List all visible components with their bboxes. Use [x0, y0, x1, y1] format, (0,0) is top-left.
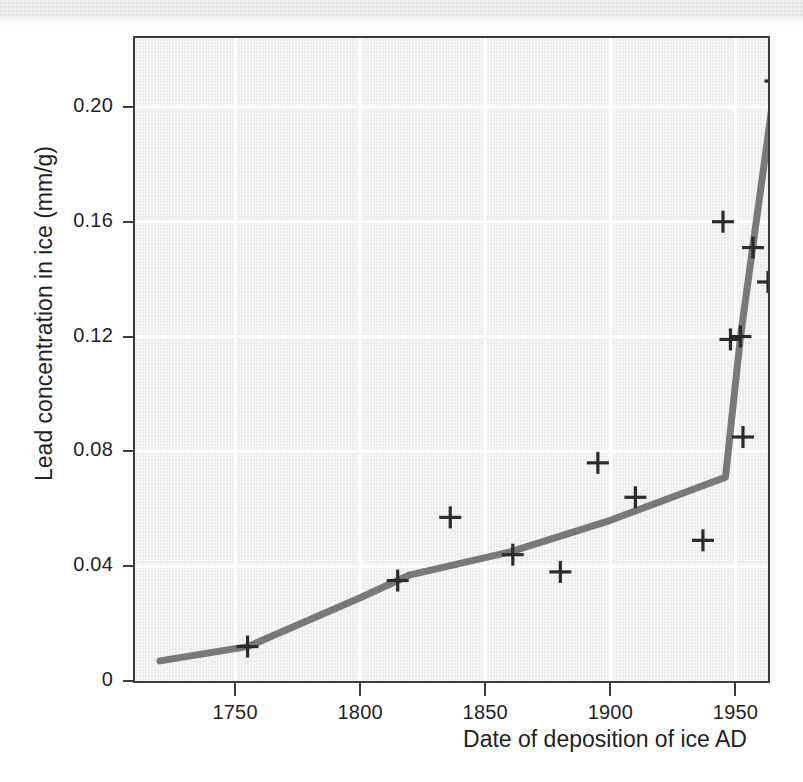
x-tick-mark — [234, 683, 236, 696]
y-tick-mark — [123, 336, 135, 338]
y-tick-label: 0.16 — [15, 209, 113, 232]
x-tick-label: 1900 — [550, 701, 670, 724]
x-tick-mark — [609, 683, 611, 696]
y-tick-mark — [123, 106, 135, 108]
scan-artifact-fade — [0, 16, 803, 26]
y-tick-label: 0.04 — [15, 553, 113, 576]
x-axis-title: Date of deposition of ice AD — [420, 726, 790, 753]
y-axis-title: Lead concentration in ice (mm/g) — [31, 34, 58, 594]
y-tick-label: 0 — [15, 668, 113, 691]
x-tick-label: 1950 — [675, 701, 795, 724]
chart-canvas — [135, 38, 768, 681]
plot-area — [133, 36, 770, 683]
y-tick-label: 0.08 — [15, 438, 113, 461]
x-tick-mark — [359, 683, 361, 696]
x-tick-label: 1800 — [300, 701, 420, 724]
y-tick-label: 0.12 — [15, 324, 113, 347]
chart-page: Lead concentration in ice (mm/g) 00.040.… — [0, 0, 803, 782]
x-tick-mark — [484, 683, 486, 696]
x-tick-mark — [734, 683, 736, 696]
y-tick-label: 0.20 — [15, 94, 113, 117]
y-tick-mark — [123, 450, 135, 452]
y-tick-mark — [123, 565, 135, 567]
data-markers — [237, 70, 768, 657]
x-tick-label: 1750 — [175, 701, 295, 724]
trend-line — [160, 81, 768, 661]
scan-artifact-strip — [0, 0, 803, 16]
x-tick-label: 1850 — [425, 701, 545, 724]
y-tick-mark — [123, 221, 135, 223]
gridlines — [135, 38, 768, 681]
y-tick-mark — [123, 680, 135, 682]
